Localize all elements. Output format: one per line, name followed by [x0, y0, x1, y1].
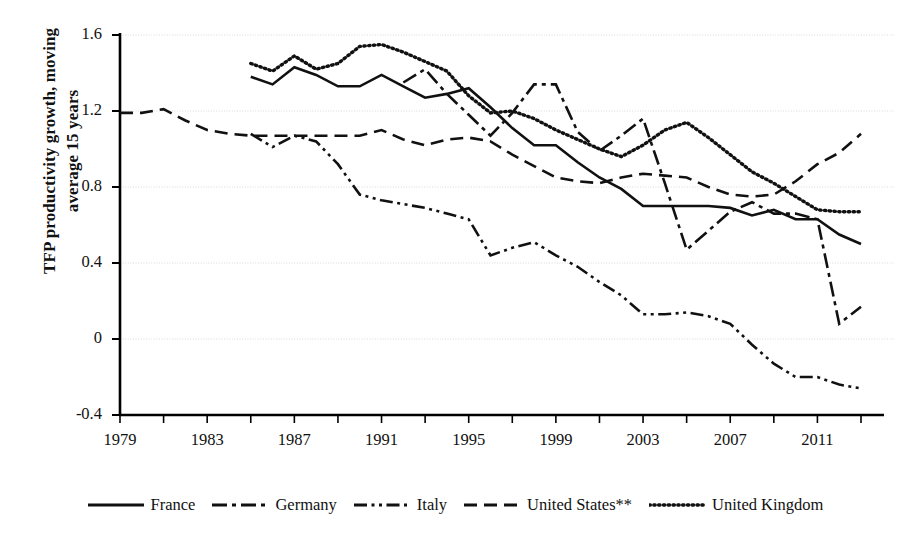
y-tick-label: 0.8 [42, 176, 102, 196]
x-tick-label: 1987 [259, 430, 329, 450]
series-line-france [251, 67, 861, 244]
legend-swatch-dashed-icon [464, 498, 520, 512]
legend-swatch-solid-icon [88, 498, 144, 512]
legend-entry[interactable]: United Kingdom [649, 495, 823, 515]
y-tick-label: 0.4 [42, 252, 102, 272]
y-tick-label: 0 [42, 328, 102, 348]
legend-entry[interactable]: United States** [464, 495, 632, 515]
x-tick-label: 1999 [521, 430, 591, 450]
legend-label: Germany [275, 495, 336, 515]
x-tick-label: 2007 [695, 430, 765, 450]
data-series-group [120, 45, 861, 389]
x-tick-label: 1991 [347, 430, 417, 450]
chart-figure: TFP productivity growth, moving average … [0, 0, 911, 547]
y-tick-label: 1.6 [42, 24, 102, 44]
legend-entry[interactable]: France [88, 495, 196, 515]
legend-entry[interactable]: Italy [354, 495, 447, 515]
x-tick-label: 2003 [608, 430, 678, 450]
series-line-italy [251, 134, 861, 389]
legend-label: United States** [527, 495, 632, 515]
chart-plot-area [0, 0, 911, 547]
series-line-united-states [120, 109, 861, 196]
x-tick-label: 2011 [782, 430, 852, 450]
axis-lines [119, 33, 884, 415]
legend-entry[interactable]: Germany [212, 495, 336, 515]
x-tick-label: 1979 [85, 430, 155, 450]
x-tick-label: 1983 [172, 430, 242, 450]
legend-label: Italy [417, 495, 447, 515]
tick-marks [112, 35, 861, 423]
legend-label: France [151, 495, 196, 515]
y-tick-label: -0.4 [42, 404, 102, 424]
legend-swatch-dotted-icon [649, 498, 705, 512]
legend-swatch-dash-dot-icon [212, 498, 268, 512]
series-line-united-kingdom [251, 45, 861, 212]
y-tick-label: 1.2 [42, 100, 102, 120]
legend-swatch-dash-dot-dot-icon [354, 498, 410, 512]
x-tick-label: 1995 [434, 430, 504, 450]
chart-legend: FranceGermanyItalyUnited States**United … [0, 495, 911, 515]
legend-label: United Kingdom [712, 495, 823, 515]
